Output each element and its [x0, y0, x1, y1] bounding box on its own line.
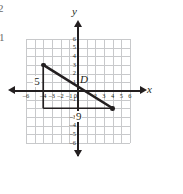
endpoint-dot-left [41, 63, 46, 68]
endpoint-dot-right [110, 106, 115, 111]
coordinate-plane: x y –6–4–3–2–1023456654321–1–3–4–5–6 5 9… [26, 39, 150, 159]
margin-text-second: 1 [0, 32, 6, 43]
margin-text-top: 2 [0, 3, 6, 14]
segment-d [43, 65, 112, 108]
x-axis-arrow-left [8, 86, 15, 94]
horizontal-leg-length-label: 9 [75, 111, 83, 122]
y-axis-label: y [72, 5, 77, 17]
figure-canvas: 2 1 x y –6–4–3–2–1023456654321–1–3–4–5–6… [0, 0, 183, 194]
y-axis-arrow-up [74, 20, 82, 27]
vertical-leg-length-label: 5 [33, 76, 41, 87]
segment-layer [26, 39, 150, 159]
segment-label: D [80, 73, 88, 85]
